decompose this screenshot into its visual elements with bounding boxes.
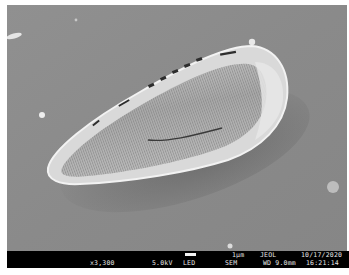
- scale-label: 1µm: [232, 252, 244, 259]
- date: 10/17/2020: [301, 252, 342, 259]
- working-distance: WD 9.0mm: [263, 260, 296, 267]
- particle: [39, 112, 45, 118]
- sem-micrograph: [7, 5, 347, 251]
- detector: LED: [183, 260, 195, 267]
- accelerating-voltage: 5.0kV: [152, 260, 173, 267]
- scale-bar: [185, 253, 196, 256]
- particle: [75, 19, 78, 22]
- particle: [228, 244, 233, 249]
- time: 16:21:14: [306, 260, 339, 267]
- particle: [249, 39, 255, 45]
- manufacturer: JEOL: [260, 252, 276, 259]
- magnification: x3,300: [90, 260, 115, 267]
- sem-info-bar: x3,300 5.0kV LED 1µm SEM JEOL WD 9.0mm 1…: [7, 251, 349, 268]
- particle: [327, 181, 339, 193]
- imaging-mode: SEM: [225, 260, 237, 267]
